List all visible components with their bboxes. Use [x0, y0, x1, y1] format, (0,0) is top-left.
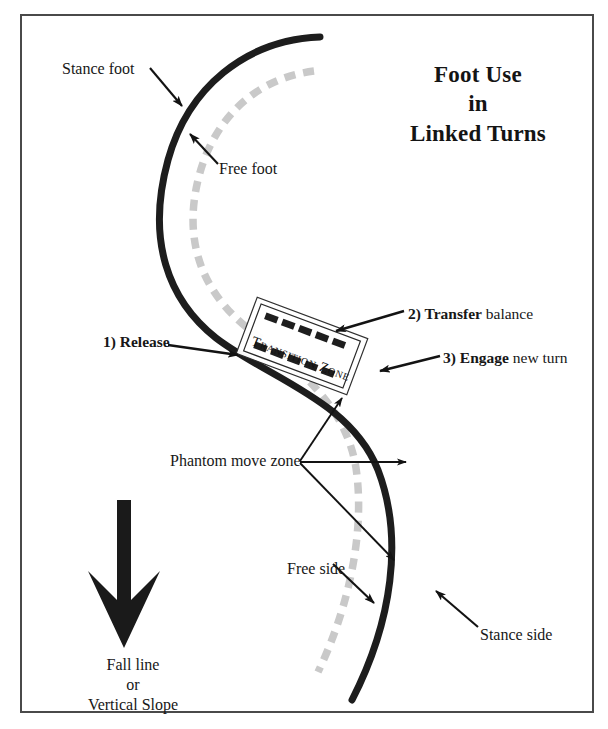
fall-line-line-2: or: [58, 675, 208, 695]
label-step-3-engage-rest: new turn: [509, 349, 568, 366]
label-step-3-engage-bold: 3) Engage: [443, 349, 509, 366]
label-fall-line: Fall line or Vertical Slope: [58, 655, 208, 715]
label-stance-side: Stance side: [480, 626, 552, 645]
label-free-side: Free side: [287, 560, 345, 579]
title-line-3: Linked Turns: [378, 119, 578, 148]
title-line-1: Foot Use: [378, 60, 578, 89]
fall-line-line-1: Fall line: [58, 655, 208, 675]
free-foot-arrow: [190, 134, 218, 164]
label-step-2-transfer: 2) Transfer balance: [408, 305, 533, 323]
label-step-3-engage: 3) Engage new turn: [443, 349, 567, 367]
diagram-page: Foot Use in Linked Turns Stance foot Fre…: [0, 0, 608, 729]
fall-line-line-3: Vertical Slope: [58, 695, 208, 715]
label-step-1-release: 1) Release: [103, 333, 170, 351]
engage-arrow: [380, 356, 440, 371]
fall-line-arrow: [88, 500, 160, 648]
transfer-arrow: [336, 311, 404, 331]
stance-foot-arrow: [150, 68, 182, 106]
label-phantom-move-zone: Phantom move zone: [170, 452, 301, 471]
label-step-2-transfer-bold: 2) Transfer: [408, 305, 482, 322]
stance-side-arrow: [436, 591, 478, 627]
label-stance-foot: Stance foot: [62, 60, 134, 79]
figure-title: Foot Use in Linked Turns: [378, 60, 578, 148]
label-step-2-transfer-rest: balance: [482, 305, 533, 322]
phantom-arrow-up: [300, 398, 342, 461]
label-free-foot: Free foot: [219, 160, 277, 179]
title-line-2: in: [378, 89, 578, 118]
